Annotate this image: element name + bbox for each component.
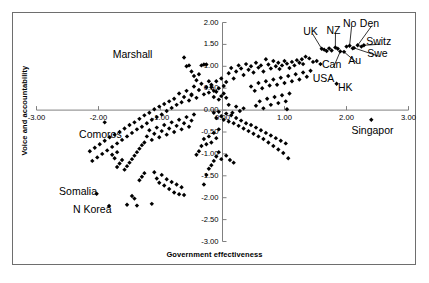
data-point (254, 104, 258, 108)
data-point (160, 173, 164, 177)
data-point (261, 137, 265, 141)
data-point (197, 72, 201, 76)
data-point (122, 126, 126, 130)
point-label-au: Au (348, 54, 361, 66)
data-point (179, 100, 183, 104)
data-point (269, 66, 273, 70)
data-point (249, 123, 253, 127)
data-point (120, 158, 124, 162)
data-point (93, 146, 97, 150)
data-point (150, 138, 154, 142)
y-tick-label: -1.00 (175, 149, 219, 158)
data-point (286, 156, 290, 160)
y-tick-label: 1.50 (175, 39, 219, 48)
data-point (251, 132, 255, 136)
data-point (256, 134, 260, 138)
data-point (231, 160, 235, 164)
x-tick-label: -3.00 (15, 113, 59, 122)
data-point (274, 136, 278, 140)
data-point (276, 147, 280, 151)
data-point (265, 97, 269, 101)
data-point (142, 171, 146, 175)
data-point (127, 160, 131, 164)
data-point (125, 203, 129, 207)
data-point (285, 107, 289, 111)
data-point (150, 202, 154, 206)
point-label-den: Den (360, 17, 379, 29)
data-point (227, 103, 231, 107)
data-point (305, 75, 309, 79)
data-point (127, 123, 131, 127)
data-point (284, 99, 288, 103)
data-point (224, 80, 228, 84)
data-point (249, 84, 253, 88)
point-label-can: Can (322, 58, 341, 70)
data-point (266, 62, 270, 66)
data-point (258, 99, 262, 103)
data-point (260, 86, 264, 90)
data-point (135, 203, 139, 207)
data-point (241, 126, 245, 130)
data-point (301, 62, 305, 66)
data-point (293, 72, 297, 76)
data-point (110, 153, 114, 157)
data-point (152, 132, 156, 136)
data-point (275, 82, 279, 86)
data-point (157, 181, 161, 185)
data-point (284, 141, 288, 145)
y-tick-label: -1.50 (175, 171, 219, 180)
x-tick-label: 2.00 (325, 113, 369, 122)
data-point (244, 121, 248, 125)
y-tick-label: 1.00 (175, 61, 219, 70)
data-point (256, 81, 260, 85)
data-point (135, 150, 139, 154)
point-label-no: No (343, 17, 356, 29)
data-point (155, 125, 159, 129)
data-point (162, 183, 166, 187)
data-point (281, 151, 285, 155)
data-point (369, 118, 373, 122)
data-point (286, 74, 290, 78)
point-label-n-korea: N Korea (73, 203, 112, 215)
data-point (117, 161, 121, 165)
data-point (271, 144, 275, 148)
data-point (246, 129, 250, 133)
data-point (169, 180, 173, 184)
data-point (303, 54, 307, 58)
data-point (115, 150, 119, 154)
data-point (307, 56, 311, 60)
data-point (267, 83, 271, 87)
data-point (140, 174, 144, 178)
data-point (137, 178, 141, 182)
data-point (147, 128, 151, 132)
data-point (157, 135, 161, 139)
data-point (264, 131, 268, 135)
data-point (254, 125, 258, 129)
data-point (202, 182, 206, 186)
data-point (231, 76, 235, 80)
data-point (204, 142, 208, 146)
x-axis-title: Government effectiveness (0, 250, 429, 259)
data-point (137, 146, 141, 150)
data-point (194, 78, 198, 82)
data-point (202, 92, 206, 96)
data-point (192, 74, 196, 78)
data-point (130, 131, 134, 135)
data-point (115, 141, 119, 145)
data-point (277, 67, 281, 71)
data-point (105, 148, 109, 152)
point-label-switz: Switz (366, 35, 391, 47)
data-point (115, 165, 119, 169)
data-point (202, 137, 206, 141)
data-point (234, 69, 238, 73)
data-point (297, 77, 301, 81)
data-point (228, 158, 232, 162)
point-label-singapor: Singapor (352, 124, 394, 136)
x-tick-label: -2.00 (77, 113, 121, 122)
data-point (264, 79, 268, 83)
data-point (276, 61, 280, 65)
data-point (162, 123, 166, 127)
data-point (272, 95, 276, 99)
y-tick-label: -0.50 (175, 127, 219, 136)
data-point (165, 177, 169, 181)
